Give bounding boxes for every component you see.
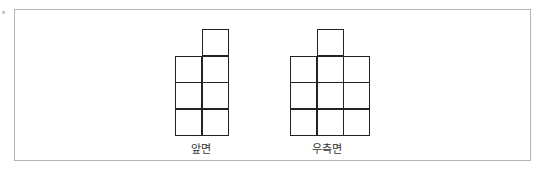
- grid-cell: [290, 56, 317, 83]
- grid-cell: [317, 82, 344, 109]
- grid-cell: [175, 56, 202, 83]
- grid-cell: [290, 82, 317, 109]
- diagram-frame: [14, 9, 531, 161]
- front-view-label: 앞면: [171, 140, 231, 156]
- grid-cell: [290, 109, 317, 136]
- grid-cell: [202, 56, 229, 83]
- grid-cell: [175, 109, 202, 136]
- grid-cell: [317, 109, 344, 136]
- grid-cell: [317, 56, 344, 83]
- corner-marker: [2, 11, 5, 14]
- grid-cell: [343, 82, 370, 109]
- grid-cell: [202, 82, 229, 109]
- grid-cell: [317, 29, 344, 56]
- grid-cell: [202, 29, 229, 56]
- grid-cell: [343, 109, 370, 136]
- right-side-view-label: 우측면: [297, 140, 357, 156]
- grid-cell: [343, 56, 370, 83]
- grid-cell: [175, 82, 202, 109]
- grid-cell: [202, 109, 229, 136]
